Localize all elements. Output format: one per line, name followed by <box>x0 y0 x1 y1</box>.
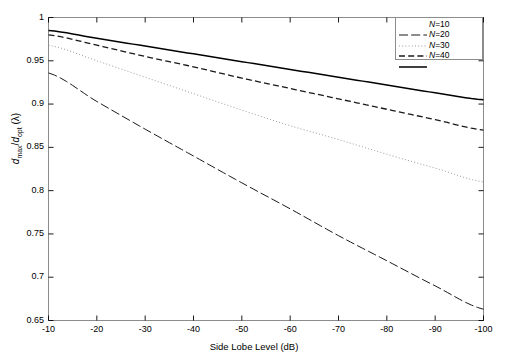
x-tick-label: -40 <box>174 324 214 334</box>
x-tick-label: -60 <box>270 324 310 334</box>
legend-item-n30[interactable]: N=30 <box>396 40 482 50</box>
data-series-group <box>49 30 484 309</box>
axis-ticks <box>49 18 484 321</box>
legend: N=10N=20N=30N=40 <box>395 17 483 60</box>
figure-chart: 0.650.70.750.80.850.90.951 -10-20-30-40-… <box>0 0 508 361</box>
x-tick-label: -30 <box>125 324 165 334</box>
x-axis-label: Side Lobe Level (dB) <box>0 341 508 352</box>
legend-item-n40[interactable]: N=40 <box>396 51 482 61</box>
x-tick-label: -90 <box>415 324 455 334</box>
legend-line-swatch <box>399 44 427 45</box>
legend-item-n10[interactable]: N=10 <box>396 19 482 29</box>
x-tick-label: -50 <box>222 324 262 334</box>
legend-line-swatch <box>399 23 427 24</box>
legend-label: N=30 <box>429 40 450 50</box>
x-tick-label: -80 <box>367 324 407 334</box>
x-tick-label: -100 <box>464 324 504 334</box>
y-tick-label: 0.75 <box>6 228 44 238</box>
legend-line-swatch <box>399 34 427 35</box>
caption-strip <box>0 353 508 361</box>
x-tick-label: -20 <box>77 324 117 334</box>
y-axis-label: dmax/dopt (λ) <box>10 89 23 189</box>
x-tick-label: -10 <box>29 324 69 334</box>
legend-line-swatch <box>399 55 427 56</box>
x-tick-label: -70 <box>319 324 359 334</box>
legend-label: N=10 <box>429 19 450 29</box>
legend-label: N=40 <box>429 50 450 60</box>
y-tick-label: 0.95 <box>6 55 44 65</box>
legend-label: N=20 <box>429 29 450 39</box>
legend-item-n20[interactable]: N=20 <box>396 30 482 40</box>
y-tick-label: 1 <box>6 12 44 22</box>
y-tick-label: 0.7 <box>6 271 44 281</box>
series-line-n10 <box>49 73 484 309</box>
axes-frame <box>49 18 484 321</box>
